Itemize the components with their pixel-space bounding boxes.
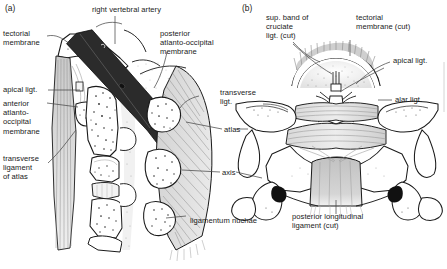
label-tectorial-membrane: tectorial membrane xyxy=(3,29,40,47)
label-right-vertebral-artery: right vertebral artery xyxy=(92,5,161,14)
label-alar-ligament: alar ligt. xyxy=(395,95,422,104)
label-superior-band-cruciate-ligament: sup. band of cruciate ligt. (cut) xyxy=(266,13,308,41)
label-apical-ligament-a: apical ligt. xyxy=(3,85,37,94)
panel-b-tag: (b) xyxy=(242,4,252,13)
label-transverse-ligament: transverse ligt. xyxy=(220,88,256,106)
label-transverse-ligament-of-atlas: transverse ligament of atlas xyxy=(3,154,39,182)
label-tectorial-membrane-cut: tectorial membrane (cut) xyxy=(356,13,410,31)
anatomical-figure: (a) (b) tectorial membrane apical ligt. … xyxy=(0,0,447,269)
label-apical-ligament-b: apical ligt. xyxy=(393,56,427,65)
label-posterior-atlanto-occipital-membrane: posterior atlanto-occipital membrane xyxy=(160,29,214,57)
label-atlas: atlas xyxy=(224,125,240,134)
illustration-artwork xyxy=(0,0,447,269)
label-anterior-atlanto-occipital-membrane: anterior atlanto- occipital membrane xyxy=(3,99,40,136)
label-ligamentum-nuchae: ligamentum nuchae xyxy=(190,216,257,225)
panel-a-artwork xyxy=(52,27,212,261)
label-posterior-longitudinal-ligament-cut: posterior longitudinal ligament (cut) xyxy=(292,212,363,230)
panel-b-artwork xyxy=(232,41,443,220)
label-axis: axis xyxy=(222,168,236,177)
panel-a-tag: (a) xyxy=(5,4,15,13)
